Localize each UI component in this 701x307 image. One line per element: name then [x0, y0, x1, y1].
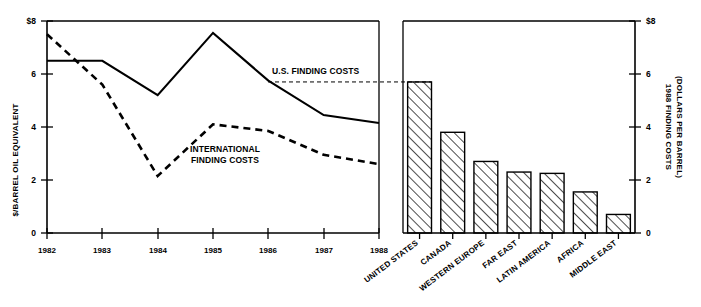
- bar-chart-category-labels: UNITED STATESCANADAWESTERN EUROPEFAR EAS…: [362, 238, 618, 293]
- y-tick-label: 0: [31, 228, 36, 238]
- category-label-western-europe: WESTERN EUROPE: [418, 238, 487, 293]
- line-chart-y-axis-title: $/BARREL OIL EQUIVALENT: [11, 103, 20, 216]
- y-tick-label: $8: [27, 16, 37, 26]
- line-chart-x-ticks: 1982 1983 1984 1985 1986 1987 1988: [38, 228, 388, 255]
- x-tick-label-1984: 1984: [149, 246, 167, 255]
- x-tick-label-1983: 1983: [93, 246, 111, 255]
- annotation-international-finding-costs-line1: INTERNATIONAL: [190, 144, 260, 154]
- line-chart-svg: $/BARREL OIL EQUIVALENT 0 2 4 6 $8: [0, 0, 400, 307]
- y-tick-label: $8: [646, 16, 656, 26]
- x-tick-label-1986: 1986: [259, 246, 277, 255]
- y-tick-label: 4: [646, 122, 651, 132]
- bar-western-europe: [474, 161, 498, 233]
- bar-chart-y-axis-title-line1: 1988 FINDING COSTS: [664, 84, 673, 171]
- bar-chart-svg: 0 2 4 6 $8 1988 FINDING COSTS (DOLLARS P…: [390, 0, 701, 307]
- y-tick-label: 6: [646, 69, 651, 79]
- bar-united-states: [408, 82, 432, 233]
- x-tick-label-1987: 1987: [315, 246, 333, 255]
- bar-chart-panel: 0 2 4 6 $8 1988 FINDING COSTS (DOLLARS P…: [390, 0, 701, 307]
- bar-canada: [441, 132, 465, 233]
- y-tick-label: 2: [31, 175, 36, 185]
- y-tick-label: 2: [646, 175, 651, 185]
- bar-africa: [573, 192, 597, 233]
- annotation-us-finding-costs: U.S. FINDING COSTS: [272, 66, 360, 76]
- bar-chart-x-ticks: [420, 233, 619, 239]
- finding-costs-figure: $/BARREL OIL EQUIVALENT 0 2 4 6 $8: [0, 0, 701, 307]
- y-tick-label: 6: [31, 69, 36, 79]
- category-label-africa: AFRICA: [555, 238, 586, 264]
- annotation-international-finding-costs-line2: FINDING COSTS: [191, 155, 259, 165]
- bar-series-group: [408, 82, 631, 233]
- bar-latin-america: [540, 173, 564, 233]
- bar-far-east: [507, 172, 531, 233]
- x-tick-label-1985: 1985: [204, 246, 222, 255]
- y-tick-label: 4: [31, 122, 36, 132]
- line-chart-panel: $/BARREL OIL EQUIVALENT 0 2 4 6 $8: [0, 0, 400, 307]
- bar-chart-y-axis-title-line2: (DOLLARS PER BARREL): [675, 76, 684, 178]
- line-chart-y-ticks: 0 2 4 6 $8: [27, 16, 53, 238]
- x-tick-label-1982: 1982: [38, 246, 56, 255]
- bar-chart-y-ticks: 0 2 4 6 $8: [629, 16, 656, 238]
- y-tick-label: 0: [646, 228, 651, 238]
- bar-middle-east: [607, 214, 631, 233]
- x-tick-label-1988: 1988: [370, 246, 388, 255]
